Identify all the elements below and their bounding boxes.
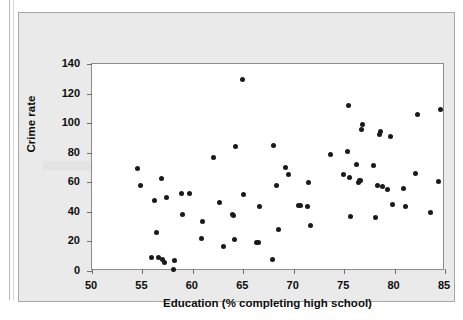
data-point [230,212,235,217]
data-point [152,198,157,203]
data-point [358,178,363,183]
data-point [221,244,226,249]
data-point [199,236,204,241]
data-point [149,255,154,260]
data-point [345,149,350,154]
y-axis-tick [87,241,92,242]
data-point [138,183,143,188]
data-point [298,203,303,208]
scan-edge-line-secondary [13,0,14,300]
data-point [135,166,140,171]
data-markers-layer [92,64,443,269]
data-point [359,127,364,132]
data-point [388,134,393,139]
scan-artifact [43,161,95,170]
y-tick-label: 80 [68,146,80,158]
data-point [159,176,164,181]
y-axis-tick [87,212,92,213]
data-point [328,152,333,157]
y-tick-label: 40 [68,205,80,217]
data-point [377,132,382,137]
data-point [308,223,313,228]
data-point [200,219,205,224]
data-point [380,184,385,189]
data-point [180,212,185,217]
data-point [346,103,351,108]
data-point [257,204,262,209]
data-point [156,255,161,260]
data-point [354,162,359,167]
data-point [271,143,276,148]
chart-figure-panel: Crime rate 020406080100120140 5055606570… [18,12,455,302]
x-axis-tick [294,269,295,274]
y-tick-label: 20 [68,234,80,246]
x-tick-label: 85 [438,279,450,291]
x-axis-title: Education (% completing high school) [91,297,444,309]
x-axis-tick [193,269,194,274]
data-point [390,202,395,207]
x-axis-tick [344,269,345,274]
y-tick-label: 140 [62,57,80,69]
data-point [413,171,418,176]
data-point [160,257,165,262]
data-point [296,203,301,208]
data-point [378,129,383,134]
data-point [428,210,433,215]
data-point [347,175,352,180]
data-point [371,163,376,168]
x-axis-tick [395,269,396,274]
data-point [306,180,311,185]
data-point [254,240,259,245]
y-axis-tick [87,182,92,183]
data-point [385,187,390,192]
y-axis-tick [87,94,92,95]
x-axis-tick [243,269,244,274]
y-axis-tick [87,123,92,124]
data-point [233,144,238,149]
data-point [341,172,346,177]
data-point [356,180,361,185]
data-point [270,257,275,262]
data-point [415,112,420,117]
x-tick-label: 60 [186,279,198,291]
data-point [375,183,380,188]
x-tick-label: 50 [85,279,97,291]
data-point [276,227,281,232]
data-point [305,204,310,209]
data-point [231,213,236,218]
data-point [172,258,177,263]
data-point [274,183,279,188]
data-point [164,195,169,200]
data-point [241,192,246,197]
x-tick-label: 80 [387,279,399,291]
data-point [348,214,353,219]
y-tick-label: 60 [68,175,80,187]
y-axis-tick [87,64,92,65]
y-axis-tick [87,153,92,154]
data-point [187,191,192,196]
data-point [256,240,261,245]
x-tick-label: 65 [236,279,248,291]
data-point [162,260,167,265]
x-axis-tick [92,269,93,274]
data-point [154,230,159,235]
x-axis-tick [142,269,143,274]
y-tick-label: 100 [62,116,80,128]
data-point [286,172,291,177]
data-point [179,191,184,196]
data-point [438,107,443,112]
y-tick-label: 120 [62,87,80,99]
data-point [217,200,222,205]
data-point [283,165,288,170]
data-point [403,204,408,209]
scan-edge-line [9,0,10,300]
data-point [436,179,441,184]
y-axis-title: Crime rate [25,96,37,153]
x-tick-label: 55 [135,279,147,291]
data-point [240,77,245,82]
scatter-plot-area [91,63,444,270]
x-tick-label: 75 [337,279,349,291]
data-point [401,186,406,191]
y-tick-label: 0 [74,264,80,276]
data-point [360,122,365,127]
